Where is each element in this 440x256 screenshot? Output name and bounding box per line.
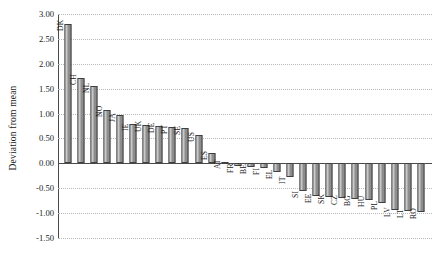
bar-category-label: JA bbox=[108, 113, 117, 122]
bar-category-label: IE bbox=[121, 123, 130, 131]
bar-category-label: LV bbox=[383, 207, 392, 217]
bar[interactable] bbox=[417, 163, 424, 211]
bar[interactable] bbox=[90, 86, 97, 163]
bar-highlight bbox=[314, 164, 316, 195]
bar-group: FI bbox=[257, 14, 270, 238]
bar[interactable] bbox=[287, 163, 294, 176]
bar-highlight bbox=[379, 164, 381, 202]
bar-group: EL bbox=[271, 14, 284, 238]
bar-category-label: AT bbox=[213, 159, 222, 169]
bar-category-label: FI bbox=[252, 168, 261, 175]
bar-category-label: BG bbox=[343, 195, 352, 206]
bar-category-label: ES bbox=[199, 151, 208, 160]
bar-highlight bbox=[405, 164, 407, 209]
bar-category-label: SE bbox=[173, 126, 182, 135]
bar-category-label: US bbox=[186, 132, 195, 142]
bar-highlight bbox=[131, 125, 133, 163]
bar-group: CH bbox=[74, 14, 87, 238]
bar-category-label: DK bbox=[56, 20, 65, 31]
bar-highlight bbox=[248, 164, 250, 166]
bar-highlight bbox=[340, 164, 342, 197]
bar[interactable] bbox=[352, 163, 359, 198]
y-axis-tick-label: 0.00 bbox=[20, 158, 54, 168]
bar-category-label: NL bbox=[82, 83, 91, 94]
chart-figure: Deviation from mean 3.002.502.001.501.00… bbox=[0, 0, 440, 256]
bar-category-label: SK bbox=[317, 194, 326, 204]
bar-highlight bbox=[261, 164, 263, 166]
bar-group: NL bbox=[87, 14, 100, 238]
bar-group: AT bbox=[218, 14, 231, 238]
bar-category-label: PT bbox=[160, 125, 169, 134]
bar-category-label: DE bbox=[147, 122, 156, 133]
y-axis-tick-label: -1.00 bbox=[20, 208, 54, 218]
bar-highlight bbox=[366, 164, 368, 198]
bar-group: LT bbox=[401, 14, 414, 238]
bar-group: FR bbox=[231, 14, 244, 238]
bar[interactable] bbox=[274, 163, 281, 172]
bar-group: DK bbox=[61, 14, 74, 238]
bar-highlight bbox=[353, 164, 355, 197]
bar[interactable] bbox=[260, 163, 267, 167]
bar-series: DKCHNLNOJAIEUKDEPTSEUSESATFRBEFIELITSIEE… bbox=[58, 14, 432, 238]
bar-group: BE bbox=[244, 14, 257, 238]
bar[interactable] bbox=[326, 163, 333, 197]
y-axis-tick-label: -1.50 bbox=[20, 233, 54, 243]
y-axis-tick-label: 2.00 bbox=[20, 59, 54, 69]
bar-highlight bbox=[301, 164, 303, 189]
bar-highlight bbox=[157, 127, 159, 163]
bar-highlight bbox=[196, 136, 198, 162]
bar-category-label: BE bbox=[239, 164, 248, 174]
bar-category-label: FR bbox=[226, 164, 235, 174]
bar-category-label: NO bbox=[95, 106, 104, 117]
bar-highlight bbox=[209, 154, 211, 162]
y-axis-tick-label: 0.50 bbox=[20, 133, 54, 143]
bar-highlight bbox=[65, 25, 67, 162]
bar-category-label: PL bbox=[369, 201, 378, 210]
bar-highlight bbox=[144, 126, 146, 163]
bar-highlight bbox=[183, 129, 185, 162]
bar-category-label: IT bbox=[278, 176, 287, 184]
bar-category-label: UK bbox=[134, 120, 143, 131]
bar-highlight bbox=[105, 111, 107, 162]
bar-highlight bbox=[235, 164, 237, 165]
bar[interactable] bbox=[404, 163, 411, 210]
y-axis-tick-label: 2.50 bbox=[20, 34, 54, 44]
bar-group: IT bbox=[284, 14, 297, 238]
bar-category-label: LT bbox=[396, 209, 405, 218]
y-axis-tick-label: 1.00 bbox=[20, 109, 54, 119]
bar-group: SI bbox=[297, 14, 310, 238]
y-axis-tick-label: -0.50 bbox=[20, 183, 54, 193]
bar-category-label: RO bbox=[409, 208, 418, 219]
bar[interactable] bbox=[365, 163, 372, 199]
bar[interactable] bbox=[313, 163, 320, 196]
bar[interactable] bbox=[339, 163, 346, 198]
bar-category-label: SI bbox=[291, 191, 300, 198]
bar-highlight bbox=[78, 79, 80, 163]
y-axis-title-text: Deviation from mean bbox=[8, 85, 18, 170]
bar-highlight bbox=[392, 164, 394, 208]
bar[interactable] bbox=[117, 115, 124, 164]
bar[interactable] bbox=[64, 24, 71, 163]
bar-group: RO bbox=[414, 14, 427, 238]
bar-category-label: EE bbox=[304, 193, 313, 203]
bar-highlight bbox=[327, 164, 329, 196]
bar-highlight bbox=[170, 128, 172, 162]
plot-area: 3.002.502.001.501.000.500.00-0.50-1.00-1… bbox=[58, 14, 432, 238]
bar-group: US bbox=[192, 14, 205, 238]
bar-category-label: EL bbox=[265, 170, 274, 180]
bar-highlight bbox=[288, 164, 290, 175]
bar-highlight bbox=[418, 164, 420, 210]
bar-group: SE bbox=[179, 14, 192, 238]
bar-category-label: CH bbox=[69, 74, 78, 85]
bar[interactable] bbox=[378, 163, 385, 203]
gridline bbox=[58, 238, 432, 239]
bar-highlight bbox=[91, 87, 93, 162]
bar-highlight bbox=[118, 116, 120, 163]
y-axis-tick-label: 1.50 bbox=[20, 84, 54, 94]
bar[interactable] bbox=[391, 163, 398, 209]
bar[interactable] bbox=[300, 163, 307, 190]
bar-group: ES bbox=[205, 14, 218, 238]
bar-group: LV bbox=[388, 14, 401, 238]
bar[interactable] bbox=[247, 163, 254, 167]
bar-category-label: HU bbox=[356, 195, 365, 206]
